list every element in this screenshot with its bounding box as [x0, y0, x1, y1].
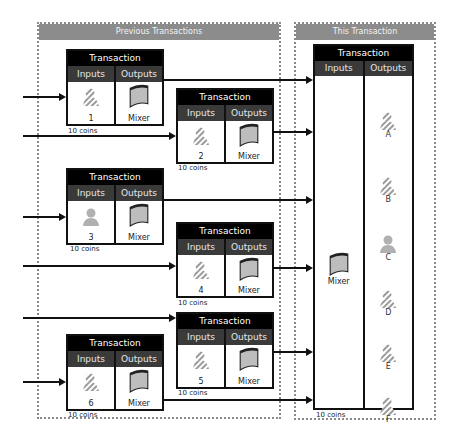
output-id: C: [365, 253, 413, 262]
output-line-5: [273, 351, 306, 353]
inputs-header: Inputs: [178, 105, 226, 121]
coins-label: 10 coins: [178, 299, 207, 307]
outputs-header: Outputs: [116, 351, 162, 367]
hatched-person-icon: [378, 396, 398, 416]
output-label: Mixer: [116, 399, 162, 408]
inputs-header: Inputs: [315, 61, 365, 76]
output-id: A: [365, 130, 413, 139]
input-line-6: [23, 381, 59, 383]
hatched-person-icon: [378, 111, 398, 131]
output-D: D: [365, 289, 413, 319]
output-line-6: [163, 399, 306, 401]
output-cell: Mixer: [116, 201, 162, 243]
transaction-title: Transaction: [178, 90, 272, 105]
inputs-header: Inputs: [178, 239, 226, 255]
input-cell: 2: [178, 121, 226, 162]
outputs-header: Outputs: [365, 61, 413, 76]
arrowhead: [306, 76, 313, 84]
arrowhead: [169, 314, 176, 322]
arrowhead: [306, 348, 313, 356]
input-cell: 6: [68, 367, 116, 409]
input-cell: 4: [178, 255, 226, 296]
input-id: 3: [68, 233, 114, 242]
transaction-4: Transaction InputsOutputs 4 Mixer: [176, 222, 274, 298]
hatched-person-icon: [378, 289, 398, 309]
hatched-person-icon: [378, 343, 398, 363]
inputs-header: Inputs: [178, 329, 226, 345]
coins-label: 10 coins: [70, 245, 99, 253]
arrowhead: [306, 128, 313, 136]
transaction-6: Transaction InputsOutputs 6 Mixer: [66, 334, 164, 411]
person-icon: [81, 206, 101, 228]
output-id: E: [365, 362, 413, 371]
arrowhead: [59, 93, 66, 101]
input-line-2: [23, 135, 169, 137]
output-line-2: [273, 131, 306, 133]
input-line-1: [23, 96, 59, 98]
arrowhead: [59, 378, 66, 386]
hatched-person-icon: [191, 349, 211, 371]
mixer-icon: [328, 251, 350, 277]
outputs-header: Outputs: [116, 66, 162, 82]
hatched-person-icon: [81, 86, 101, 108]
output-B: B: [365, 176, 413, 206]
input-line-4: [23, 265, 169, 267]
input-id: 1: [68, 114, 114, 123]
arrowhead: [306, 196, 313, 204]
input-label: Mixer: [315, 277, 363, 286]
hatched-person-icon: [378, 176, 398, 196]
coins-label: 10 coins: [178, 164, 207, 172]
input-line-5: [23, 317, 169, 319]
input-cell: 1: [68, 82, 116, 124]
transaction-title: Transaction: [178, 314, 272, 329]
output-line-1: [163, 79, 306, 81]
output-id: D: [365, 308, 413, 317]
arrowhead: [59, 213, 66, 221]
output-label: Mixer: [116, 114, 162, 123]
output-cell: Mixer: [116, 82, 162, 124]
mixer-icon: [238, 122, 260, 148]
previous-transactions-header: Previous Transactions: [39, 24, 279, 40]
output-id: F: [365, 415, 413, 424]
inputs-header: Inputs: [68, 185, 116, 201]
input-cell: 3: [68, 201, 116, 243]
inputs-header: Inputs: [68, 66, 116, 82]
input-id: 4: [178, 286, 224, 295]
transaction-1: Transaction InputsOutputs 1 Mixer: [66, 49, 164, 126]
output-cell: Mixer: [226, 345, 272, 387]
mixer-icon: [238, 256, 260, 282]
input-id: 5: [178, 377, 224, 386]
arrowhead: [169, 262, 176, 270]
output-A: A: [365, 111, 413, 141]
hatched-person-icon: [81, 371, 101, 393]
transaction-3: Transaction InputsOutputs 3 Mixer: [66, 168, 164, 245]
arrowhead: [169, 132, 176, 140]
transaction-title: Transaction: [68, 336, 162, 351]
this-transaction-header: This Transaction: [296, 24, 434, 40]
outputs-header: Outputs: [226, 329, 272, 345]
arrowhead: [306, 264, 313, 272]
inputs-header: Inputs: [68, 351, 116, 367]
output-C: C: [365, 234, 413, 264]
this-transaction: Transaction InputsOutputs Mixer A B C D: [313, 44, 414, 410]
output-F: F: [365, 396, 413, 426]
input-id: 2: [178, 152, 224, 161]
hatched-person-icon: [191, 125, 211, 147]
mixer-icon: [128, 83, 150, 109]
output-line-3: [163, 199, 306, 201]
input-cell: Mixer: [315, 76, 365, 408]
input-cell: 5: [178, 345, 226, 387]
mixer-icon: [238, 346, 260, 372]
transaction-title: Transaction: [68, 170, 162, 185]
output-cell: Mixer: [226, 121, 272, 162]
output-id: B: [365, 195, 413, 204]
outputs-header: Outputs: [226, 239, 272, 255]
transaction-title: Transaction: [68, 51, 162, 66]
transaction-2: Transaction InputsOutputs 2 Mixer: [176, 88, 274, 164]
output-label: Mixer: [116, 233, 162, 242]
transaction-title: Transaction: [178, 224, 272, 239]
outputs-header: Outputs: [116, 185, 162, 201]
outputs-cell: A B C D E F: [365, 76, 413, 408]
output-label: Mixer: [226, 377, 272, 386]
mixer-icon: [128, 368, 150, 394]
